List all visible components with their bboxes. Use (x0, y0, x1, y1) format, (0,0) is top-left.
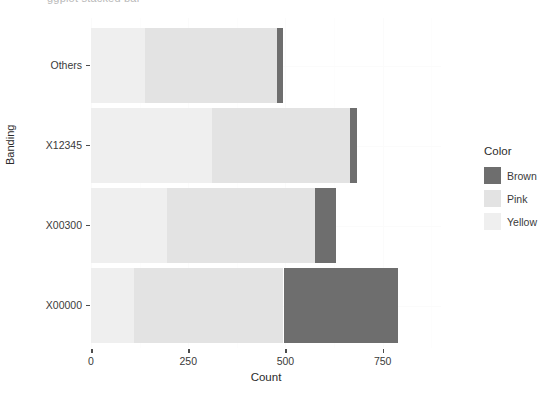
bar-segment-pink[interactable] (134, 268, 284, 343)
x-tick-label: 250 (179, 355, 197, 367)
x-axis-title: Count (91, 371, 441, 383)
x-tick-label: 500 (277, 355, 295, 367)
clipped-title: ggplot stacked bar (47, 0, 141, 4)
y-tick-mark (86, 145, 90, 147)
plot-panel (91, 18, 441, 348)
bar-row[interactable] (91, 28, 441, 103)
bar-segment-brown[interactable] (315, 188, 336, 263)
bar-segment-pink[interactable] (167, 188, 315, 263)
legend-swatch-yellow (484, 213, 501, 230)
bar-segment-brown[interactable] (284, 268, 399, 343)
bar-segment-brown[interactable] (350, 108, 357, 183)
bar-segment-yellow[interactable] (91, 28, 145, 103)
x-tick-mark (285, 349, 287, 353)
legend-label: Brown (507, 170, 537, 182)
y-tick-mark (86, 225, 90, 227)
y-tick-label: X00000 (46, 299, 82, 311)
legend-item[interactable]: Yellow (484, 213, 557, 233)
bar-segment-pink[interactable] (145, 28, 278, 103)
bar-segment-yellow[interactable] (91, 268, 134, 343)
bar-segment-yellow[interactable] (91, 108, 212, 183)
x-tick-mark (383, 349, 385, 353)
bar-row[interactable] (91, 268, 441, 343)
y-tick-mark (86, 65, 90, 67)
bar-row[interactable] (91, 188, 441, 263)
bar-segment-pink[interactable] (212, 108, 351, 183)
legend-key-background (484, 190, 501, 207)
y-tick-label: X12345 (46, 139, 82, 151)
legend-item[interactable]: Brown (484, 167, 557, 187)
legend-key-background (484, 167, 501, 184)
legend-swatch-brown (484, 167, 501, 184)
legend-label: Yellow (507, 216, 537, 228)
legend-key-background (484, 213, 501, 230)
legend-swatch-pink (484, 190, 501, 207)
y-axis-title: Banding (4, 125, 16, 165)
y-tick-label: Others (50, 59, 82, 71)
x-tick-label: 750 (374, 355, 392, 367)
legend-item[interactable]: Pink (484, 190, 557, 210)
bar-segment-brown[interactable] (277, 28, 283, 103)
y-tick-label: X00300 (46, 219, 82, 231)
x-tick-mark (188, 349, 190, 353)
legend-label: Pink (507, 193, 527, 205)
chart-container: ggplot stacked bar Banding OthersX12345X… (0, 0, 557, 403)
x-tick-label: 0 (88, 355, 94, 367)
bar-row[interactable] (91, 108, 441, 183)
legend-title: Color (484, 145, 511, 157)
x-tick-mark (91, 349, 93, 353)
y-tick-mark (86, 305, 90, 307)
bar-segment-yellow[interactable] (91, 188, 167, 263)
